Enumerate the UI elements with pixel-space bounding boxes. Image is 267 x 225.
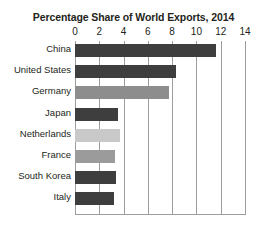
category-label-japan: Japan — [0, 107, 71, 118]
category-label-italy: Italy — [0, 191, 71, 202]
bar-italy — [75, 192, 114, 205]
x-axis-tick-labels: 02468101214 — [0, 26, 267, 40]
x-tick-label-2: 2 — [97, 26, 103, 37]
category-label-netherlands: Netherlands — [0, 128, 71, 139]
category-label-germany: Germany — [0, 85, 71, 96]
bars-layer: ChinaUnited StatesGermanyJapanNetherland… — [0, 41, 267, 217]
bar-row: China — [0, 41, 267, 62]
x-tick-label-6: 6 — [145, 26, 151, 37]
bar-united-states — [75, 65, 176, 78]
x-tick-label-10: 10 — [191, 26, 202, 37]
x-tick-label-8: 8 — [169, 26, 175, 37]
category-label-china: China — [0, 43, 71, 54]
bar-row: Italy — [0, 189, 267, 210]
chart-title: Percentage Share of World Exports, 2014 — [0, 11, 267, 23]
category-label-south-korea: South Korea — [0, 170, 71, 181]
bar-france — [75, 150, 115, 163]
bar-south-korea — [75, 171, 116, 184]
bar-japan — [75, 108, 118, 121]
x-tick-label-0: 0 — [72, 26, 78, 37]
bar-netherlands — [75, 129, 120, 142]
bar-row: Netherlands — [0, 126, 267, 147]
bar-chart: Percentage Share of World Exports, 2014 … — [0, 0, 267, 225]
bar-row: United States — [0, 62, 267, 83]
bar-row: South Korea — [0, 168, 267, 189]
x-tick-label-12: 12 — [215, 26, 226, 37]
bar-row: Japan — [0, 105, 267, 126]
bar-row: Germany — [0, 83, 267, 104]
x-tick-label-14: 14 — [239, 26, 250, 37]
bar-china — [75, 44, 216, 57]
category-label-united-states: United States — [0, 64, 71, 75]
bar-germany — [75, 86, 169, 99]
category-label-france: France — [0, 149, 71, 160]
bar-row: France — [0, 147, 267, 168]
x-tick-label-4: 4 — [121, 26, 127, 37]
